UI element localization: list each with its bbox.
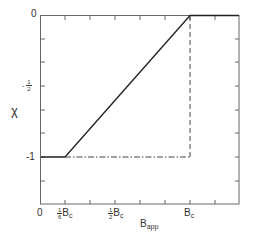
plot-frame	[41, 16, 240, 205]
x-ticks-bottom	[65, 200, 215, 204]
x-ticks-top	[65, 16, 215, 20]
x-tick-label-bc: Bc	[184, 208, 194, 219]
x-axis-main: B	[140, 218, 147, 229]
y-half-num: 1	[26, 79, 31, 86]
series-chi-solid	[41, 16, 239, 158]
y-tick-label-0: 0	[31, 9, 37, 19]
chart-plot-area	[0, 0, 256, 240]
x-axis-sub: app	[147, 223, 159, 230]
y-half-den: 2	[27, 86, 30, 92]
y-tick-label-minus-1: -1	[26, 152, 35, 162]
y-half-fraction: 1 2	[26, 79, 31, 92]
x-tick-label-half-bc: 1 2 Bc	[108, 207, 124, 220]
x-bc-b: B	[184, 207, 191, 218]
x-sixth-den: 6	[58, 214, 61, 220]
y-ticks-left	[41, 39, 45, 181]
y-half-sign: -	[22, 82, 24, 89]
x-half-b: B	[113, 207, 120, 218]
x-axis-title: Bapp	[140, 219, 158, 230]
y-axis-title: χ	[11, 104, 18, 117]
x-sixth-sub: c	[69, 212, 73, 219]
y-tick-label-minus-half: - 1 2	[22, 79, 32, 92]
y-ticks-right	[235, 39, 239, 181]
x-half-den: 2	[109, 214, 112, 220]
x-bc-sub: c	[191, 212, 195, 219]
x-tick-label-0: 0	[37, 208, 43, 218]
x-half-sub: c	[120, 212, 124, 219]
x-tick-label-sixth-bc: 1 6 Bc	[57, 207, 73, 220]
x-sixth-b: B	[62, 207, 69, 218]
